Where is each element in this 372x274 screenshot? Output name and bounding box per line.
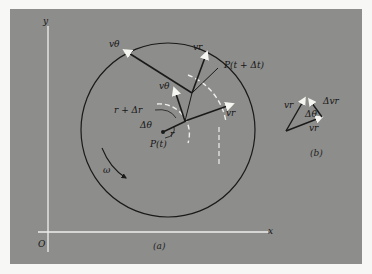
point-later-label: P(t + Δt) <box>224 61 264 70</box>
v-theta-inner-vector <box>174 88 185 121</box>
v-r-inner-label: vr <box>226 109 235 118</box>
v-r-outer-label: vr <box>193 43 202 52</box>
y-axis-label: y <box>43 17 48 26</box>
r-plus-dr-label: r + Δr <box>114 106 142 115</box>
omega-label: ω <box>103 166 110 175</box>
dtheta-label: Δθ <box>140 121 152 130</box>
diagram-graphics <box>0 0 372 274</box>
caption-b: (b) <box>310 148 323 158</box>
dtheta-b-label: Δθ <box>305 110 317 119</box>
delta-v-r-label: Δvr <box>323 97 339 106</box>
origin-label: O <box>38 240 45 249</box>
v-r-b-label: vr <box>309 124 318 133</box>
v-theta-outer-label: vθ <box>109 40 120 49</box>
r-label: r <box>170 130 174 139</box>
arc-r-plus-dr <box>188 75 226 122</box>
v-theta-inner-label: vθ <box>159 82 170 91</box>
caption-a: (a) <box>153 241 165 251</box>
v-r-outer-vector <box>192 52 207 93</box>
point-now-label: P(t) <box>150 140 167 149</box>
x-axis-label: x <box>268 227 273 236</box>
v-theta-outer-vector <box>124 50 192 93</box>
v-r-prime-label: vr <box>284 101 293 110</box>
